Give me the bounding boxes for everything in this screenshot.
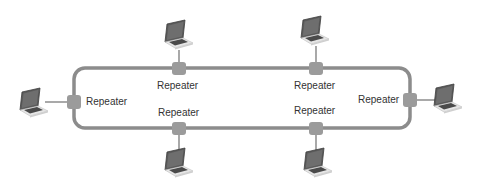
repeater-label-bottom-right: Repeater (294, 105, 335, 117)
repeater-left[interactable] (67, 95, 81, 109)
repeater-label-right: Repeater (358, 94, 399, 106)
repeater-right[interactable] (403, 93, 417, 107)
laptop-icon (304, 148, 332, 178)
laptop-icon (165, 20, 193, 50)
repeater-label-top-right: Repeater (294, 80, 335, 92)
repeater-label-top-left: Repeater (157, 80, 198, 92)
network-diagram (0, 0, 482, 192)
laptop-icon (434, 84, 462, 114)
laptop-icon (20, 88, 48, 118)
laptop-icon (165, 148, 193, 178)
laptop-icon (301, 16, 329, 46)
repeater-label-left: Repeater (86, 96, 127, 108)
repeater-bottom-left[interactable] (172, 122, 186, 135)
repeater-top-left[interactable] (172, 62, 186, 75)
repeater-top-right[interactable] (309, 62, 323, 75)
repeater-label-bottom-left: Repeater (158, 107, 199, 119)
repeater-bottom-right[interactable] (309, 122, 323, 135)
